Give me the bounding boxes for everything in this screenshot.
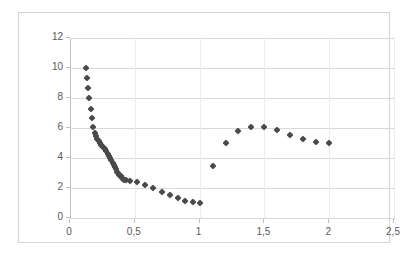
y-axis-tick-label: 2 <box>35 182 63 192</box>
gridline-vertical <box>329 38 330 218</box>
gridline-vertical <box>135 38 136 218</box>
y-axis-tick-labels: 024681012 <box>33 13 63 257</box>
data-point-marker <box>86 94 93 101</box>
data-point-marker <box>82 64 89 71</box>
data-point-marker <box>83 74 90 81</box>
y-axis-tick-label: 6 <box>35 122 63 132</box>
y-axis-tick <box>66 37 70 38</box>
gridline-vertical <box>200 38 201 218</box>
x-axis-tick-label: 2,5 <box>373 227 406 237</box>
plot-area <box>70 38 394 218</box>
gridline-horizontal <box>70 68 394 69</box>
data-point-marker <box>209 163 216 170</box>
y-axis-tick <box>66 67 70 68</box>
data-point-marker <box>326 139 333 146</box>
y-axis-tick <box>66 157 70 158</box>
x-axis-tick <box>69 219 70 223</box>
data-point-marker <box>196 199 203 206</box>
x-axis-tick-label: 1 <box>179 227 219 237</box>
x-axis-tick <box>328 219 329 223</box>
data-point-marker <box>149 184 156 191</box>
data-point-marker <box>85 85 92 92</box>
data-point-marker <box>287 132 294 139</box>
x-axis-tick <box>199 219 200 223</box>
x-axis-tick-label: 0 <box>49 227 89 237</box>
data-point-marker <box>182 197 189 204</box>
x-axis-tick <box>393 219 394 223</box>
chart-frame: 024681012 00,511,522,5 <box>18 12 390 243</box>
x-axis-tick-label: 0,5 <box>114 227 154 237</box>
gridline-horizontal <box>70 38 394 39</box>
y-axis-tick-label: 8 <box>35 92 63 102</box>
x-axis-tick <box>263 219 264 223</box>
y-axis-tick <box>66 127 70 128</box>
y-axis-tick-label: 4 <box>35 152 63 162</box>
x-axis-tick-label: 1,5 <box>243 227 283 237</box>
data-point-marker <box>174 194 181 201</box>
data-point-marker <box>300 135 307 142</box>
gridline-horizontal <box>70 128 394 129</box>
gridline-horizontal <box>70 158 394 159</box>
y-axis-tick <box>66 187 70 188</box>
data-point-marker <box>88 115 95 122</box>
data-point-marker <box>222 139 229 146</box>
data-point-marker <box>158 188 165 195</box>
y-axis-tick <box>66 97 70 98</box>
y-axis-tick-label: 10 <box>35 62 63 72</box>
gridline-horizontal <box>70 218 394 219</box>
gridline-horizontal <box>70 188 394 189</box>
gridline-vertical <box>394 38 395 218</box>
data-point-marker <box>313 138 320 145</box>
y-axis-tick-label: 12 <box>35 32 63 42</box>
gridline-horizontal <box>70 98 394 99</box>
x-axis-tick <box>134 219 135 223</box>
data-point-marker <box>166 191 173 198</box>
data-point-marker <box>261 123 268 130</box>
y-axis-tick <box>66 217 70 218</box>
x-axis-tick-label: 2 <box>308 227 348 237</box>
data-point-marker <box>87 105 94 112</box>
y-axis-tick-label: 0 <box>35 212 63 222</box>
